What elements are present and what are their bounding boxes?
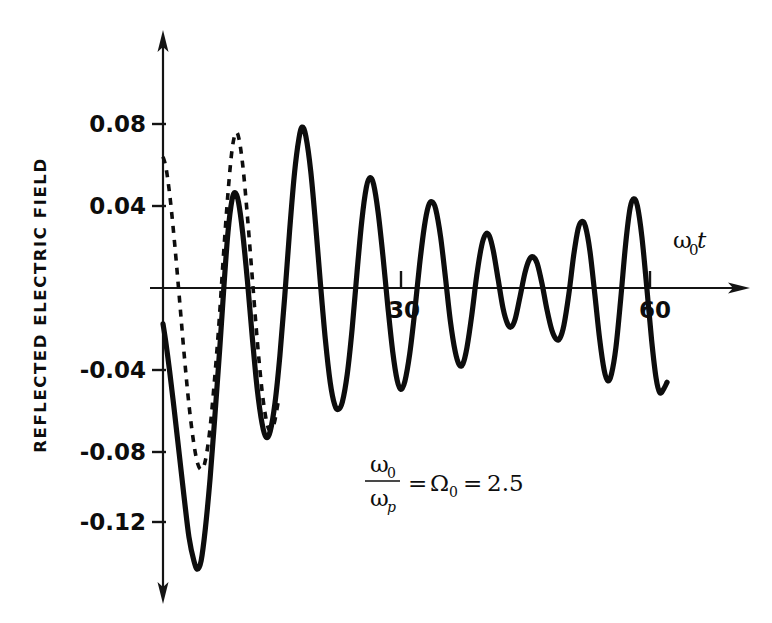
x-tick-label-60: 60 bbox=[639, 297, 671, 323]
equation-denominator-subscript: p bbox=[387, 499, 396, 515]
equation-denominator-omega: ω bbox=[370, 485, 389, 511]
reflected-electric-field-plot: 0.08 0.04 -0.04 -0.08 -0.12 30 60 REFLEC… bbox=[0, 0, 772, 623]
chart-figure: 0.08 0.04 -0.04 -0.08 -0.12 30 60 REFLEC… bbox=[0, 0, 772, 623]
equation-equals-first: = bbox=[408, 470, 427, 496]
y-tick-label-neg0.12: -0.12 bbox=[80, 509, 146, 535]
y-axis-ticks: 0.08 0.04 -0.04 -0.08 -0.12 bbox=[80, 111, 166, 535]
x-axis-title-t: t bbox=[697, 227, 707, 253]
data-curves bbox=[163, 127, 667, 569]
frequency-ratio-equation: ω 0 ω p = Ω 0 = 2.5 bbox=[365, 451, 524, 515]
x-axis-title: ω 0 t bbox=[673, 227, 707, 259]
equation-omega-capital: Ω bbox=[430, 470, 449, 496]
y-tick-label-0.04: 0.04 bbox=[89, 193, 146, 219]
solid-curve bbox=[163, 127, 667, 569]
equation-equals-second: = bbox=[463, 470, 482, 496]
equation-numerator-omega: ω bbox=[370, 451, 389, 477]
equation-value: 2.5 bbox=[487, 470, 524, 496]
y-axis-title: REFLECTED ELECTRIC FIELD bbox=[31, 157, 50, 453]
y-tick-label-neg0.04: -0.04 bbox=[80, 357, 146, 383]
y-tick-label-neg0.08: -0.08 bbox=[80, 439, 146, 465]
x-axis-ticks: 30 60 bbox=[388, 271, 671, 323]
equation-numerator-subscript: 0 bbox=[387, 465, 396, 481]
equation-omega-capital-subscript: 0 bbox=[449, 484, 458, 500]
y-tick-label-0.08: 0.08 bbox=[89, 111, 146, 137]
